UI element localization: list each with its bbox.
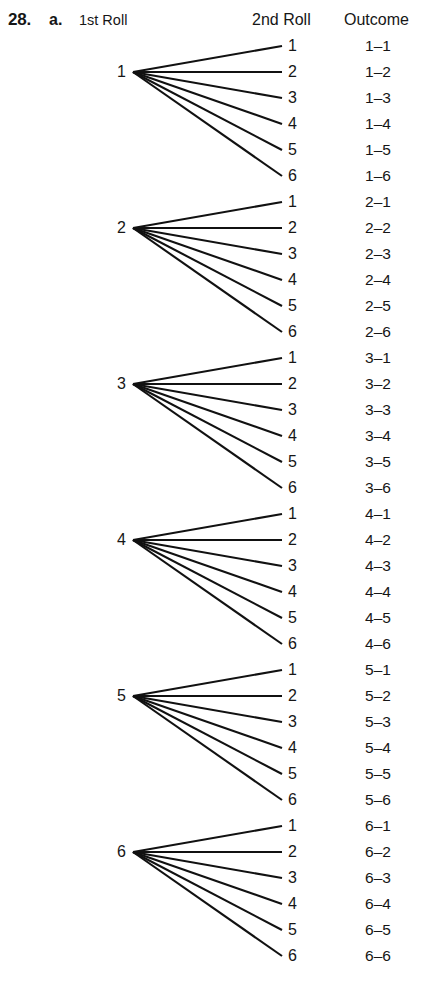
second-roll-value: 4 [288, 740, 304, 756]
second-roll-value: 5 [288, 454, 304, 470]
branch-line-1-5 [133, 72, 282, 150]
outcome-value: 3–2 [338, 376, 418, 392]
outcome-value: 4–6 [338, 636, 418, 652]
branch-line-6-3 [133, 852, 282, 878]
branch-line-5-6 [133, 696, 282, 800]
outcome-value: 2–3 [338, 246, 418, 262]
branch-line-5-3 [133, 696, 282, 722]
outcome-value: 6–2 [338, 844, 418, 860]
outcome-value: 2–6 [338, 324, 418, 340]
branch-line-6-4 [133, 852, 282, 904]
outcome-value: 1–4 [338, 116, 418, 132]
first-roll-node-4: 4 [100, 532, 126, 548]
branch-line-6-6 [133, 852, 282, 956]
outcome-value: 5–4 [338, 740, 418, 756]
branch-line-3-3 [133, 384, 282, 410]
first-roll-node-2: 2 [100, 220, 126, 236]
outcome-value: 5–6 [338, 792, 418, 808]
branch-line-3-6 [133, 384, 282, 488]
outcome-value: 4–1 [338, 506, 418, 522]
branch-line-1-4 [133, 72, 282, 124]
second-roll-value: 1 [288, 350, 304, 366]
tree-diagram-page: 28. a. 1st Roll 2nd Roll Outcome 111–121… [0, 0, 436, 994]
second-roll-value: 3 [288, 246, 304, 262]
second-roll-value: 2 [288, 64, 304, 80]
second-roll-value: 1 [288, 38, 304, 54]
second-roll-value: 1 [288, 818, 304, 834]
branch-line-group [133, 46, 282, 956]
outcome-value: 2–5 [338, 298, 418, 314]
outcome-value: 3–1 [338, 350, 418, 366]
first-roll-node-1: 1 [100, 64, 126, 80]
second-roll-value: 5 [288, 142, 304, 158]
outcome-value: 6–3 [338, 870, 418, 886]
second-roll-value: 4 [288, 428, 304, 444]
outcome-value: 2–2 [338, 220, 418, 236]
first-roll-node-5: 5 [100, 688, 126, 704]
outcome-value: 2–1 [338, 194, 418, 210]
second-roll-value: 5 [288, 922, 304, 938]
branch-line-5-4 [133, 696, 282, 748]
branch-line-6-5 [133, 852, 282, 930]
second-roll-value: 4 [288, 272, 304, 288]
outcome-value: 5–5 [338, 766, 418, 782]
outcome-value: 2–4 [338, 272, 418, 288]
outcome-value: 5–2 [338, 688, 418, 704]
second-roll-value: 2 [288, 376, 304, 392]
second-roll-value: 2 [288, 532, 304, 548]
outcome-value: 6–5 [338, 922, 418, 938]
second-roll-value: 6 [288, 948, 304, 964]
outcome-value: 1–6 [338, 168, 418, 184]
branch-line-1-1 [133, 46, 282, 72]
second-roll-value: 5 [288, 298, 304, 314]
outcome-value: 4–2 [338, 532, 418, 548]
second-roll-value: 2 [288, 220, 304, 236]
branch-line-2-3 [133, 228, 282, 254]
branch-line-2-1 [133, 202, 282, 228]
outcome-value: 3–4 [338, 428, 418, 444]
second-roll-value: 2 [288, 688, 304, 704]
outcome-value: 1–3 [338, 90, 418, 106]
branch-line-4-5 [133, 540, 282, 618]
second-roll-value: 5 [288, 766, 304, 782]
second-roll-value: 5 [288, 610, 304, 626]
second-roll-value: 3 [288, 90, 304, 106]
outcome-value: 4–4 [338, 584, 418, 600]
outcome-value: 3–6 [338, 480, 418, 496]
second-roll-value: 6 [288, 168, 304, 184]
branch-line-4-3 [133, 540, 282, 566]
second-roll-value: 4 [288, 116, 304, 132]
second-roll-value: 3 [288, 870, 304, 886]
second-roll-value: 6 [288, 636, 304, 652]
outcome-value: 1–5 [338, 142, 418, 158]
second-roll-value: 2 [288, 844, 304, 860]
branch-line-1-6 [133, 72, 282, 176]
second-roll-value: 4 [288, 896, 304, 912]
second-roll-value: 3 [288, 714, 304, 730]
branch-line-2-6 [133, 228, 282, 332]
second-roll-value: 1 [288, 194, 304, 210]
branch-line-5-5 [133, 696, 282, 774]
second-roll-value: 6 [288, 792, 304, 808]
outcome-value: 4–5 [338, 610, 418, 626]
outcome-value: 1–2 [338, 64, 418, 80]
second-roll-value: 3 [288, 558, 304, 574]
branch-line-4-6 [133, 540, 282, 644]
branch-line-2-4 [133, 228, 282, 280]
branch-line-3-1 [133, 358, 282, 384]
branch-line-1-3 [133, 72, 282, 98]
outcome-value: 6–6 [338, 948, 418, 964]
branch-line-4-1 [133, 514, 282, 540]
outcome-value: 6–1 [338, 818, 418, 834]
branch-line-2-5 [133, 228, 282, 306]
branch-line-3-5 [133, 384, 282, 462]
outcome-value: 1–1 [338, 38, 418, 54]
second-roll-value: 1 [288, 506, 304, 522]
second-roll-value: 1 [288, 662, 304, 678]
branch-line-3-4 [133, 384, 282, 436]
outcome-value: 3–5 [338, 454, 418, 470]
branch-line-4-4 [133, 540, 282, 592]
outcome-value: 4–3 [338, 558, 418, 574]
second-roll-value: 3 [288, 402, 304, 418]
branch-line-5-1 [133, 670, 282, 696]
